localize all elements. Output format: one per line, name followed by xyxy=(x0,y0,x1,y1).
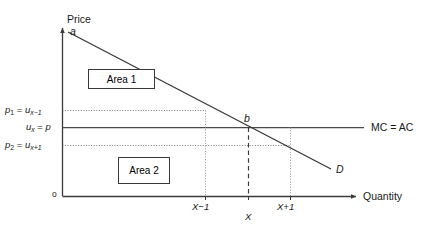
x-tick-label-x: X xyxy=(245,212,251,222)
demand-curve-start-label: a xyxy=(70,26,76,37)
annotation-box-area-2: Area 2 xyxy=(118,157,170,184)
diagram-canvas xyxy=(0,0,427,246)
demand-curve-end-label: D xyxy=(336,164,344,175)
mc-ac-label: MC = AC xyxy=(371,122,413,133)
origin-label: o xyxy=(52,190,57,199)
x-axis-label: Quantity xyxy=(363,191,402,202)
x-tick-label-x-minus-1: X−1 xyxy=(192,202,209,212)
annotation-label-area-2: Area 2 xyxy=(129,165,158,176)
y-tick-label-p1: p1 = ux−1 xyxy=(5,105,41,116)
demand-curve xyxy=(68,32,331,169)
y-tick-label-p2: p2 = ux+1 xyxy=(5,140,41,151)
x-tick-label-x-plus-1: X+1 xyxy=(277,202,294,212)
intersection-point-label: b xyxy=(244,113,250,124)
annotation-label-area-1: Area 1 xyxy=(107,74,136,85)
y-tick-label-ux: ux = p xyxy=(26,122,51,133)
y-axis-label: Price xyxy=(67,14,91,25)
annotation-box-area-1: Area 1 xyxy=(88,69,155,89)
economics-diagram: Price Quantity o a D b MC = AC p1 = ux−1… xyxy=(0,0,427,246)
